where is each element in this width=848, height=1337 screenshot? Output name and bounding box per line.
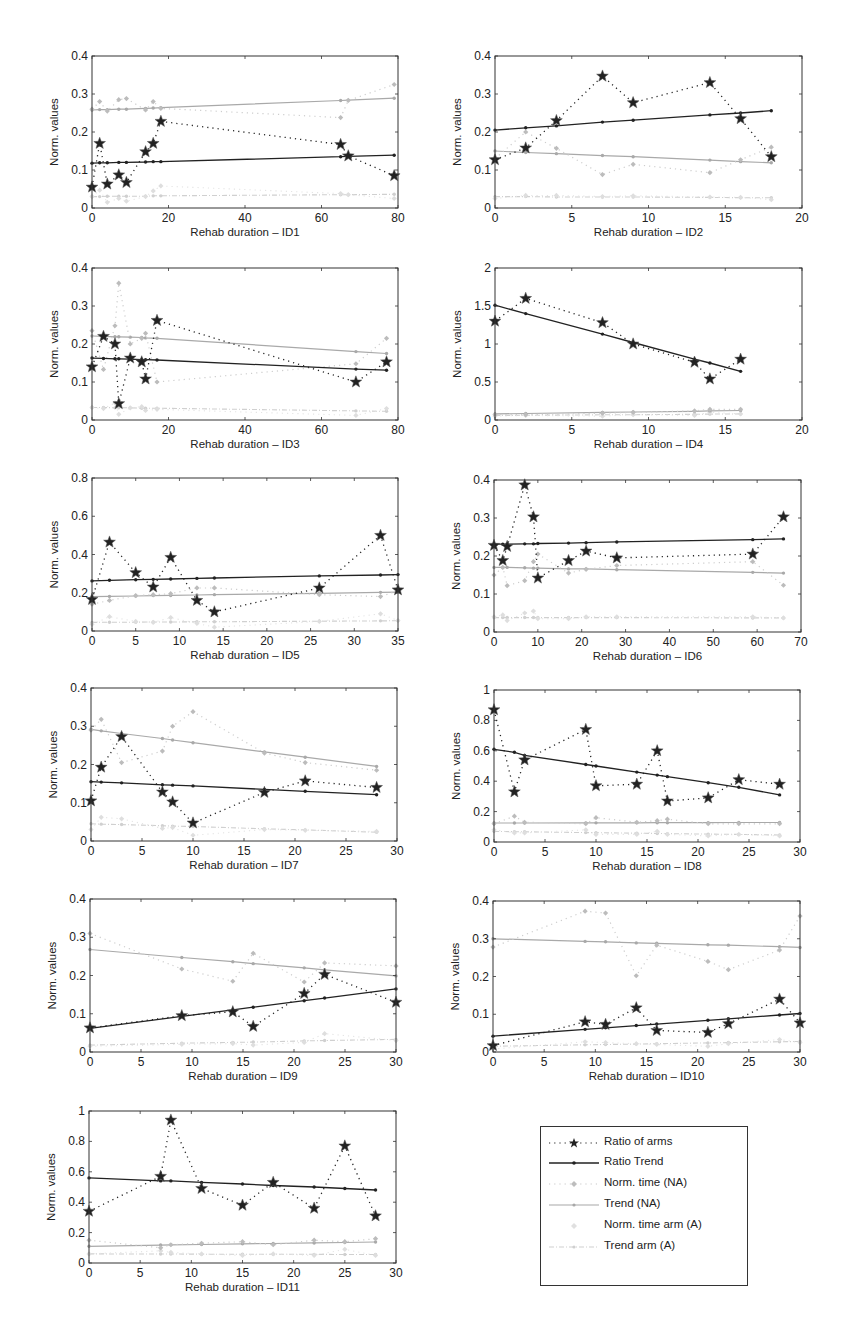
diamond-marker-icon: [373, 1236, 378, 1241]
diamond-marker-icon: [342, 1247, 347, 1252]
star-marker-icon: [308, 1202, 320, 1213]
y-tick-label: 0.6: [68, 1165, 85, 1179]
dot-marker-icon: [343, 1253, 346, 1256]
legend-swatch-dashdot-icon: [549, 1237, 601, 1257]
legend-label: Trend (NA): [604, 1197, 660, 1209]
legend-label: Ratio of arms: [604, 1135, 672, 1147]
diamond-marker-icon: [158, 1245, 163, 1250]
legend-label: Norm. time (NA): [604, 1176, 687, 1188]
x-tick-label: 20: [287, 1266, 301, 1280]
x-tick-label: 0: [86, 1266, 93, 1280]
diamond-marker-icon: [199, 1251, 204, 1256]
y-tick-label: 1: [78, 1104, 85, 1118]
legend-swatch-solid-gray-icon: [549, 1195, 601, 1215]
dot-marker-icon: [374, 1188, 377, 1191]
x-tick-label: 25: [338, 1266, 352, 1280]
x-tick-label: 10: [185, 1266, 199, 1280]
legend-item-norm-time-na: Norm. time (NA): [541, 1174, 747, 1194]
dot-marker-icon: [169, 1179, 172, 1182]
x-tick-label: 15: [236, 1266, 250, 1280]
dot-marker-icon: [241, 1182, 244, 1185]
y-tick-label: 0.8: [68, 1134, 85, 1148]
legend-label: Norm. time arm (A): [604, 1218, 702, 1230]
diamond-marker-icon: [240, 1253, 245, 1258]
diamond-marker-icon: [271, 1251, 276, 1256]
diamond-marker-icon: [373, 1253, 378, 1258]
legend-item-ratio-trend: Ratio Trend: [541, 1153, 747, 1173]
star-marker-icon: [196, 1182, 208, 1193]
series-trend-na: [89, 1242, 376, 1246]
diamond-marker-icon: [168, 1242, 173, 1247]
legend-label: Trend arm (A): [604, 1239, 675, 1251]
legend-item-ratio-of-arms: Ratio of arms: [541, 1133, 747, 1153]
star-marker-icon: [339, 1140, 351, 1151]
legend-item-norm-time-arm-a: Norm. time arm (A): [541, 1216, 747, 1236]
y-tick-label: 0.4: [68, 1195, 85, 1209]
y-tick-label: 0: [78, 1256, 85, 1270]
legend-swatch-diamond-dotted-icon: [549, 1174, 601, 1194]
y-tick-label: 0.2: [68, 1226, 85, 1240]
dot-marker-icon: [343, 1187, 346, 1190]
dot-marker-icon: [312, 1185, 315, 1188]
legend: Ratio of arms Ratio Trend Norm. time (NA…: [540, 1126, 748, 1286]
x-tick-label: 5: [137, 1266, 144, 1280]
diamond-marker-icon: [312, 1253, 317, 1258]
y-axis-label: Norm. values: [45, 1153, 57, 1221]
x-tick-label: 30: [389, 1266, 403, 1280]
legend-swatch-diamond-light-icon: [549, 1216, 601, 1236]
legend-item-trend-na: Trend (NA): [541, 1195, 747, 1215]
x-axis-label: Rehab duration – ID11: [185, 1281, 300, 1293]
plot-area: [83, 1114, 381, 1258]
star-marker-icon: [165, 1114, 177, 1125]
legend-item-trend-arm-a: Trend arm (A): [541, 1237, 747, 1257]
legend-label: Ratio Trend: [604, 1155, 663, 1167]
series-trend-arm-a: [89, 1254, 376, 1255]
legend-swatch-star-dotted-icon: [549, 1133, 601, 1153]
series-ratio-trend: [89, 1178, 376, 1190]
star-marker-icon: [370, 1210, 382, 1221]
diamond-marker-icon: [312, 1238, 317, 1243]
series-ratio-of-arms: [89, 1120, 376, 1216]
legend-swatch-solid-dot-icon: [549, 1153, 601, 1173]
diamond-marker-icon: [342, 1239, 347, 1244]
star-marker-icon: [237, 1199, 249, 1210]
